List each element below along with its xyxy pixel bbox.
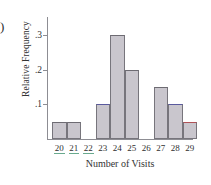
x-axis-title: Number of Visits — [47, 158, 193, 170]
x-tick-label-29: 29 — [183, 143, 198, 154]
y-tick-label-1-wrap: .1 — [26, 99, 42, 109]
bar-29 — [183, 122, 198, 139]
y-tick-mark-2 — [43, 70, 48, 71]
y-tick-mark-1 — [43, 104, 48, 105]
bar-23 — [96, 104, 111, 139]
y-tick-label-3-wrap: .3 — [26, 30, 42, 40]
bar-27 — [154, 87, 169, 139]
x-tick-label-21: 21 — [67, 143, 82, 154]
plot-area: .3 .2 .1 20 21 22 23 24 25 26 27 28 29 N… — [0, 0, 211, 185]
bar-24 — [110, 35, 125, 139]
bar-21 — [67, 122, 82, 139]
x-tick-label-27: 27 — [154, 143, 169, 154]
y-tick-label-2-wrap: .2 — [26, 65, 42, 75]
x-tick-label-26: 26 — [139, 143, 154, 154]
x-tick-label-22: 22 — [81, 143, 96, 154]
bar-20 — [52, 122, 67, 139]
histogram-figure: ) Relative Frequency .3 .2 .1 20 21 22 2… — [0, 0, 211, 185]
x-axis-line — [47, 139, 193, 140]
bar-28 — [168, 104, 183, 139]
y-tick-label-3: .3 — [28, 30, 42, 40]
y-tick-mark-3 — [43, 35, 48, 36]
bar-25 — [125, 70, 140, 139]
x-tick-label-23: 23 — [96, 143, 111, 154]
x-tick-label-28: 28 — [168, 143, 183, 154]
x-tick-label-25: 25 — [125, 143, 140, 154]
x-tick-label-24: 24 — [110, 143, 125, 154]
y-tick-label-1: .1 — [28, 99, 42, 109]
x-tick-label-20: 20 — [52, 143, 67, 154]
y-tick-label-2: .2 — [28, 65, 42, 75]
